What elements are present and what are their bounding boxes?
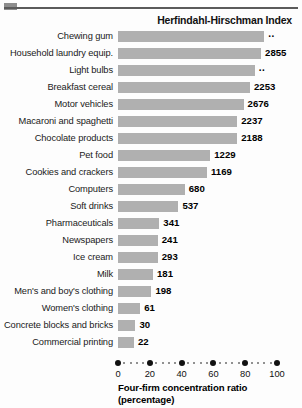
bar-row: Soft drinks537 bbox=[0, 199, 302, 216]
bar-track: 2253 bbox=[118, 82, 302, 93]
bar-category-label: Chewing gum bbox=[0, 30, 113, 43]
bar-track: 241 bbox=[118, 235, 302, 246]
bar bbox=[118, 337, 134, 348]
axis-tick-label: 80 bbox=[240, 368, 250, 380]
axis-tick-label: 20 bbox=[145, 368, 155, 380]
bar-track: 341 bbox=[118, 218, 302, 229]
chart-title: Herfindahl-Hirschman Index bbox=[0, 14, 292, 26]
bar-row: Breakfast cereal2253 bbox=[0, 80, 302, 97]
bar bbox=[118, 201, 178, 212]
bar-category-label: Pet food bbox=[0, 149, 113, 162]
axis-tick-dot bbox=[242, 360, 248, 366]
bar bbox=[118, 269, 153, 280]
axis-tick-label: 0 bbox=[115, 368, 120, 380]
bar bbox=[118, 286, 151, 297]
bar-category-label: Computers bbox=[0, 183, 113, 196]
bar-track: 2855 bbox=[118, 48, 302, 59]
bar bbox=[118, 218, 159, 229]
axis-minor-dot bbox=[270, 362, 272, 364]
bar-value: 2676 bbox=[248, 98, 269, 110]
axis-tick-dot bbox=[147, 360, 153, 366]
bar-row: Chocolate products2188 bbox=[0, 131, 302, 148]
bar-row: Light bulbs.. bbox=[0, 63, 302, 80]
bar-category-label: Newspapers bbox=[0, 234, 113, 247]
bar-category-label: Macaroni and spaghetti bbox=[0, 115, 113, 128]
bar-value: 22 bbox=[138, 336, 149, 348]
bar-track: 2188 bbox=[118, 133, 302, 144]
bar-track: 537 bbox=[118, 201, 302, 212]
axis-minor-dot bbox=[206, 362, 208, 364]
bar bbox=[118, 82, 250, 93]
bar bbox=[118, 167, 207, 178]
bar-row: Commercial printing22 bbox=[0, 335, 302, 352]
bar bbox=[118, 320, 135, 331]
bar-category-label: Concrete blocks and bricks bbox=[0, 319, 113, 332]
bar-value: 30 bbox=[139, 319, 150, 331]
x-axis-title: Four-firm concentration ratio (percentag… bbox=[118, 382, 302, 405]
bar bbox=[118, 303, 140, 314]
bar-value: 241 bbox=[162, 234, 178, 246]
bar-category-label: Commercial printing bbox=[0, 336, 113, 349]
bar bbox=[118, 235, 158, 246]
bar-value: 537 bbox=[182, 200, 198, 212]
axis-minor-dot bbox=[136, 362, 138, 364]
axis-tick-dot bbox=[274, 360, 280, 366]
bar-track: .. bbox=[118, 31, 302, 42]
bar bbox=[118, 252, 158, 263]
axis-minor-dot bbox=[174, 362, 176, 364]
bar-category-label: Men's and boy's clothing bbox=[0, 285, 113, 298]
bar-row: Computers680 bbox=[0, 182, 302, 199]
axis-minor-dot bbox=[193, 362, 195, 364]
bar-category-label: Milk bbox=[0, 268, 113, 281]
bar-category-label: Chocolate products bbox=[0, 132, 113, 145]
axis-minor-dot bbox=[225, 362, 227, 364]
bar-row: Concrete blocks and bricks30 bbox=[0, 318, 302, 335]
bar-track: 680 bbox=[118, 184, 302, 195]
axis-minor-dot bbox=[162, 362, 164, 364]
bar-value: 2253 bbox=[254, 81, 275, 93]
bar-value: 198 bbox=[155, 285, 171, 297]
bar bbox=[118, 48, 261, 59]
axis-minor-dot bbox=[231, 362, 233, 364]
bar bbox=[118, 31, 264, 42]
bar-value: 1169 bbox=[211, 166, 232, 178]
bar-track: 1169 bbox=[118, 167, 302, 178]
bar-value: 1229 bbox=[214, 149, 235, 161]
axis-tick-dot bbox=[210, 360, 216, 366]
bar-category-label: Soft drinks bbox=[0, 200, 113, 213]
bar-row: Ice cream293 bbox=[0, 250, 302, 267]
bar-category-label: Ice cream bbox=[0, 251, 113, 264]
bar-row: Motor vehicles2676 bbox=[0, 97, 302, 114]
bar-track: 293 bbox=[118, 252, 302, 263]
axis-minor-dot bbox=[155, 362, 157, 364]
bar-value: 2237 bbox=[241, 115, 262, 127]
bar-track: 22 bbox=[118, 337, 302, 348]
bar-category-label: Household laundry equip. bbox=[0, 47, 113, 60]
bar-category-label: Pharmaceuticals bbox=[0, 217, 113, 230]
bar-category-label: Breakfast cereal bbox=[0, 81, 113, 94]
axis-tick-dot bbox=[179, 360, 185, 366]
bar-track: 61 bbox=[118, 303, 302, 314]
bar-row: Cookies and crackers1169 bbox=[0, 165, 302, 182]
bar-value: 2855 bbox=[265, 47, 286, 59]
bar-row: Milk181 bbox=[0, 267, 302, 284]
axis-minor-dot bbox=[238, 362, 240, 364]
bar-value-na: .. bbox=[268, 28, 275, 40]
bar-category-label: Light bulbs bbox=[0, 64, 113, 77]
bar-track: 181 bbox=[118, 269, 302, 280]
axis-minor-dot bbox=[123, 362, 125, 364]
x-axis-tick-labels: 020406080100 bbox=[118, 368, 277, 380]
bar-track: 198 bbox=[118, 286, 302, 297]
axis-minor-dot bbox=[219, 362, 221, 364]
bar-category-label: Motor vehicles bbox=[0, 98, 113, 111]
bar-value: 293 bbox=[162, 251, 178, 263]
bar-track: 2676 bbox=[118, 99, 302, 110]
bar-category-label: Cookies and crackers bbox=[0, 166, 113, 179]
bar-row: Household laundry equip.2855 bbox=[0, 46, 302, 63]
axis-minor-dot bbox=[200, 362, 202, 364]
bar-row: Pharmaceuticals341 bbox=[0, 216, 302, 233]
axis-minor-dot bbox=[168, 362, 170, 364]
axis-minor-dot bbox=[142, 362, 144, 364]
bar-track: 2237 bbox=[118, 116, 302, 127]
bar-track: 1229 bbox=[118, 150, 302, 161]
